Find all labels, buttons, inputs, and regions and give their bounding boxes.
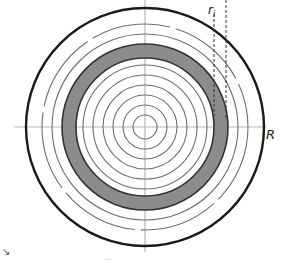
corner-mark: ↘	[2, 246, 10, 257]
annulus-diagram	[0, 0, 283, 263]
axis-label-r: R	[266, 128, 275, 141]
caption-fragment: …	[104, 254, 112, 262]
ring-radius-label: ri	[208, 4, 215, 19]
